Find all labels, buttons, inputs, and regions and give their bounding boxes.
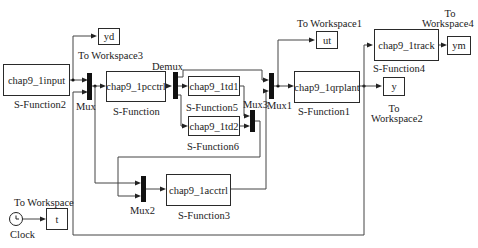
sfunction2-caption: S-Function2 xyxy=(14,99,66,110)
mux-caption: Mux xyxy=(76,101,96,112)
to-workspace1-caption: To Workspace1 xyxy=(297,18,362,29)
mux3-block[interactable] xyxy=(250,110,255,132)
mux3-caption: Mux3 xyxy=(243,99,268,110)
to-workspace1-block[interactable]: ut xyxy=(316,31,338,49)
sfunction3-name: chap9_1acctrl xyxy=(169,185,228,196)
sfunction5-caption: S-Function5 xyxy=(186,102,238,113)
sfunction6-caption: S-Function6 xyxy=(187,141,239,152)
sfunction-name: chap9_1pcctrl xyxy=(106,81,165,92)
demux-caption: Demux xyxy=(152,61,183,72)
to-workspace4-block[interactable]: ym xyxy=(447,36,471,55)
sfunction-caption: S-Function xyxy=(113,106,160,117)
to-workspace2-var: y xyxy=(391,81,396,92)
sfunction4-block[interactable]: chap9_1track xyxy=(374,29,439,61)
sfunction5-name: chap9_1td1 xyxy=(190,81,239,92)
to-workspace4-caption-line2: Workspace4 xyxy=(422,18,474,29)
to-workspace1-var: ut xyxy=(323,35,331,46)
sfunction3-block[interactable]: chap9_1acctrl xyxy=(166,174,231,206)
mux2-block[interactable] xyxy=(141,176,146,202)
sfunction5-block[interactable]: chap9_1td1 xyxy=(188,76,240,96)
to-workspace-var: t xyxy=(56,214,59,225)
mux1-block[interactable] xyxy=(269,73,274,99)
sfunction1-block[interactable]: chap9_1qrplant xyxy=(294,71,360,103)
sfunction2-name: chap9_1input xyxy=(8,75,65,86)
sfunction2-block[interactable]: chap9_1input xyxy=(3,64,70,96)
to-workspace4-var: ym xyxy=(452,40,465,51)
to-workspace-caption: To Workspace xyxy=(14,197,74,208)
sfunction6-block[interactable]: chap9_1td2 xyxy=(188,116,240,136)
sfunction4-caption: S-Function4 xyxy=(373,63,425,74)
mux2-caption: Mux2 xyxy=(130,205,155,216)
to-workspace2-caption-line2: Workspace2 xyxy=(371,113,423,124)
to-workspace3-block[interactable]: yd xyxy=(98,28,120,45)
sfunction6-name: chap9_1td2 xyxy=(190,121,239,132)
sfunction1-caption: S-Function1 xyxy=(298,106,350,117)
to-workspace3-caption: To Workspace3 xyxy=(78,50,143,61)
to-workspace3-var: yd xyxy=(104,31,115,42)
mux-block[interactable] xyxy=(87,73,92,100)
sfunction3-caption: S-Function3 xyxy=(178,210,230,221)
demux-block[interactable] xyxy=(173,72,178,99)
sfunction4-name: chap9_1track xyxy=(378,40,435,51)
to-workspace2-block[interactable]: y xyxy=(383,77,405,96)
mux1-caption: Mux1 xyxy=(267,100,292,111)
clock-caption: Clock xyxy=(10,229,35,240)
sfunction1-name: chap9_1qrplant xyxy=(294,82,359,93)
clock-icon[interactable] xyxy=(9,212,23,226)
to-workspace-block[interactable]: t xyxy=(46,208,68,230)
sfunction-block[interactable]: chap9_1pcctrl xyxy=(106,71,166,102)
